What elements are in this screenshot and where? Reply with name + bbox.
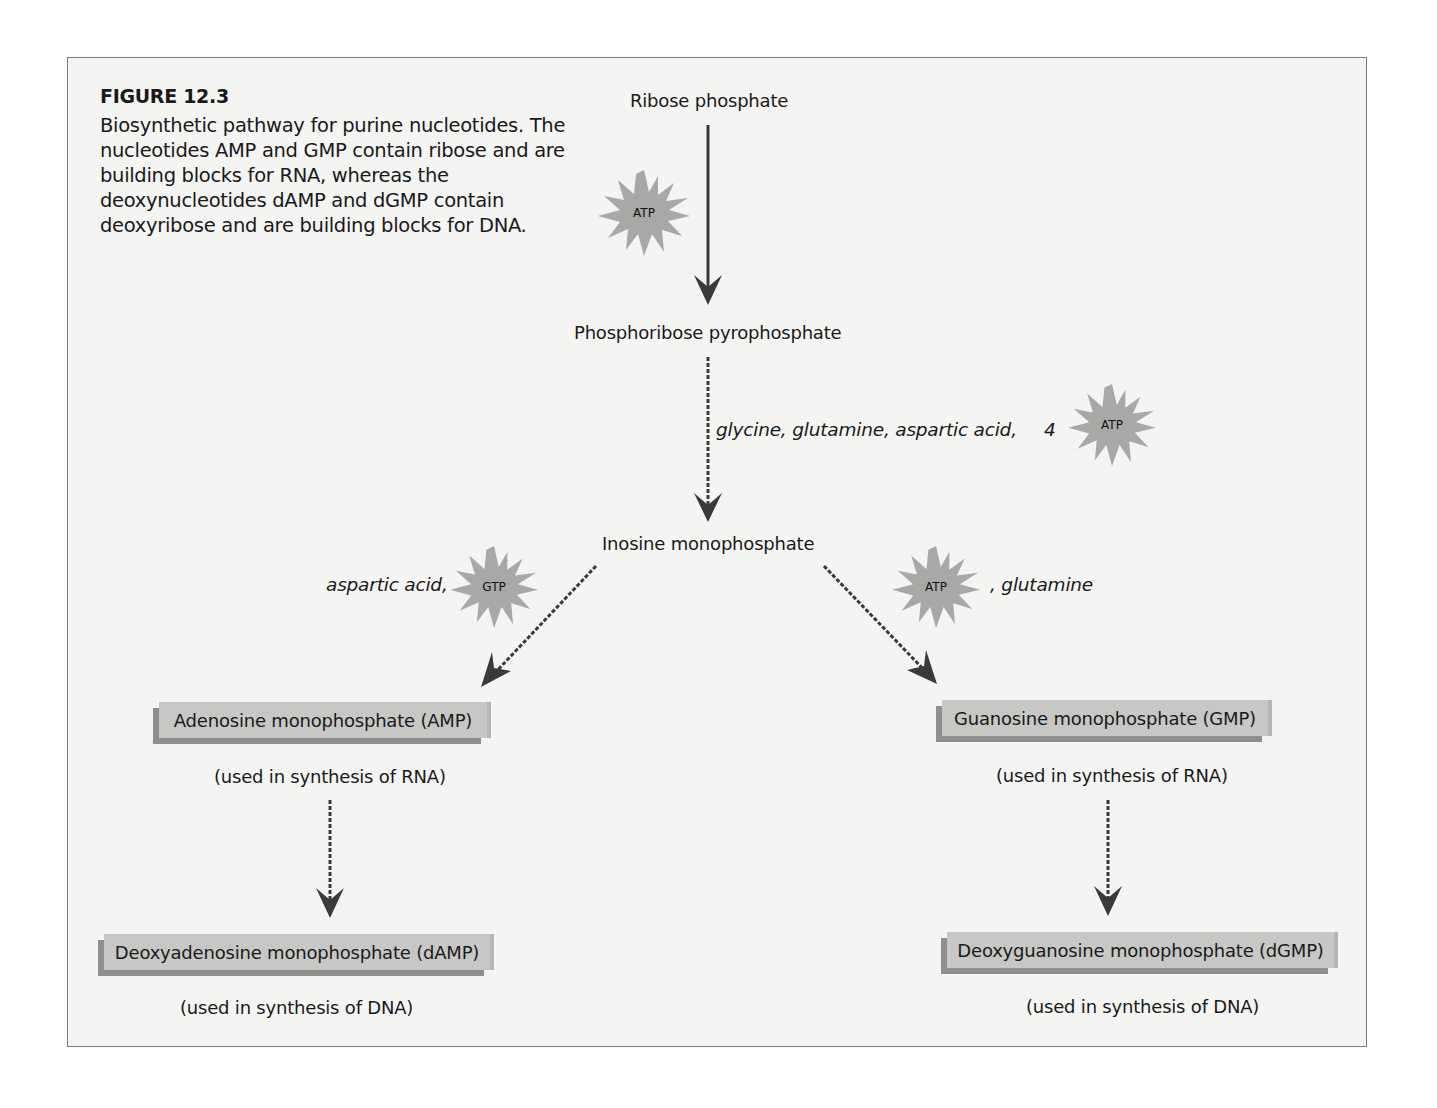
box-dgmp: Deoxyguanosine monophosphate (dGMP) xyxy=(947,932,1334,968)
node-ribose-phosphate: Ribose phosphate xyxy=(630,90,788,111)
arrowhead-icon xyxy=(481,652,511,687)
reactants-imp-to-gmp: , glutamine xyxy=(990,574,1093,595)
atp-label: ATP xyxy=(598,170,690,256)
note-dgmp-use: (used in synthesis of DNA) xyxy=(1026,996,1259,1017)
note-damp-use: (used in synthesis of DNA) xyxy=(180,997,413,1018)
atp-label: ATP xyxy=(890,546,982,628)
arrowhead-icon xyxy=(907,650,937,684)
note-gmp-use: (used in synthesis of RNA) xyxy=(996,765,1228,786)
gtp-label: GTP xyxy=(448,546,540,628)
node-prpp: Phosphoribose pyrophosphate xyxy=(574,322,841,343)
atp-count: 4 xyxy=(1044,419,1056,440)
box-amp: Adenosine monophosphate (AMP) xyxy=(159,702,487,738)
atp-burst-icon: ATP xyxy=(1066,384,1158,466)
box-damp: Deoxyadenosine monophosphate (dAMP) xyxy=(104,934,490,970)
reactants-imp-to-amp: aspartic acid, xyxy=(326,574,448,595)
atp-label: ATP xyxy=(1066,384,1158,466)
reactants-prpp-to-imp: glycine, glutamine, aspartic acid, xyxy=(716,419,1017,440)
node-imp: Inosine monophosphate xyxy=(602,533,814,554)
box-gmp: Guanosine monophosphate (GMP) xyxy=(942,700,1268,736)
atp-burst-icon: ATP xyxy=(890,546,982,628)
atp-burst-icon: ATP xyxy=(598,170,690,256)
gtp-burst-icon: GTP xyxy=(448,546,540,628)
note-amp-use: (used in synthesis of RNA) xyxy=(214,766,446,787)
